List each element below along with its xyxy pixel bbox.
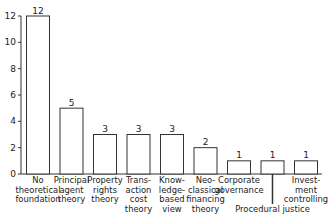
bar-value-label: 5 <box>69 98 75 108</box>
bar <box>27 16 50 174</box>
bar <box>127 135 150 175</box>
y-tick-label: 6 <box>10 90 16 100</box>
bar <box>161 135 184 175</box>
y-tick-label: 10 <box>5 37 17 47</box>
bar <box>228 161 251 174</box>
y-tick-label: 4 <box>10 116 16 126</box>
bar-value-label: 3 <box>136 124 142 134</box>
x-axis-label: Invest- ment controlling <box>280 176 330 205</box>
bar <box>194 148 217 174</box>
bar-value-label: 12 <box>32 6 43 16</box>
bar-value-label: 1 <box>270 150 276 160</box>
y-tick-label: 12 <box>5 11 16 21</box>
bar <box>60 108 83 174</box>
x-axis-label: Corporate governance <box>213 176 265 195</box>
y-tick-label: 2 <box>10 143 16 153</box>
x-axis-label: Procedural justice <box>228 205 318 215</box>
bar <box>94 135 117 175</box>
bar <box>261 161 284 174</box>
y-tick-label: 8 <box>10 64 16 74</box>
bar-value-label: 1 <box>303 150 309 160</box>
bar <box>295 161 318 174</box>
bar-value-label: 3 <box>169 124 175 134</box>
bar-value-label: 2 <box>203 137 209 147</box>
bar-value-label: 1 <box>236 150 242 160</box>
bar-value-label: 3 <box>102 124 108 134</box>
